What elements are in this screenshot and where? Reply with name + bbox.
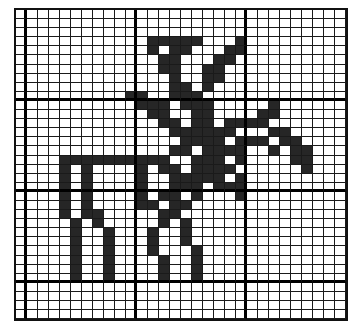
empty-cell [137,128,148,137]
filled-cell [137,156,148,165]
empty-cell [104,101,115,110]
empty-cell [236,83,247,92]
empty-cell [38,137,49,146]
empty-cell [38,46,49,55]
empty-cell [49,55,60,64]
empty-cell [247,265,258,274]
filled-cell [126,156,137,165]
empty-cell [126,174,137,183]
empty-cell [181,55,192,64]
empty-cell [148,256,159,265]
empty-cell [236,265,247,274]
empty-cell [159,28,170,37]
empty-cell [126,228,137,237]
cross-stitch-grid [14,8,348,321]
empty-cell [291,19,302,28]
empty-cell [49,83,60,92]
empty-cell [93,10,104,19]
empty-cell [236,10,247,19]
empty-cell [214,110,225,119]
filled-cell [225,119,236,128]
empty-cell [16,137,27,146]
empty-cell [82,237,93,246]
empty-cell [258,256,269,265]
empty-cell [203,219,214,228]
empty-cell [159,292,170,301]
empty-cell [93,74,104,83]
empty-cell [324,301,335,310]
empty-cell [93,28,104,37]
empty-cell [291,219,302,228]
empty-cell [291,83,302,92]
filled-cell [126,92,137,101]
empty-cell [335,174,346,183]
empty-cell [104,283,115,292]
empty-cell [225,210,236,219]
filled-cell [214,165,225,174]
empty-cell [214,10,225,19]
empty-cell [148,83,159,92]
empty-cell [324,156,335,165]
filled-cell [93,210,104,219]
filled-cell [291,137,302,146]
empty-cell [258,292,269,301]
empty-cell [291,74,302,83]
filled-cell [192,256,203,265]
empty-cell [137,28,148,37]
empty-cell [27,165,38,174]
filled-cell [203,174,214,183]
empty-cell [38,65,49,74]
empty-cell [115,128,126,137]
empty-cell [170,28,181,37]
empty-cell [137,246,148,255]
empty-cell [82,265,93,274]
empty-cell [324,10,335,19]
empty-cell [126,28,137,37]
empty-cell [258,246,269,255]
empty-cell [104,46,115,55]
filled-cell [82,165,93,174]
empty-cell [60,265,71,274]
filled-cell [170,65,181,74]
empty-cell [27,292,38,301]
empty-cell [27,274,38,283]
empty-cell [335,119,346,128]
empty-cell [236,74,247,83]
empty-cell [104,165,115,174]
empty-cell [137,283,148,292]
empty-cell [49,310,60,319]
filled-cell [71,274,82,283]
empty-cell [335,283,346,292]
empty-cell [71,137,82,146]
filled-cell [192,37,203,46]
filled-cell [104,237,115,246]
empty-cell [159,183,170,192]
empty-cell [104,174,115,183]
filled-cell [269,101,280,110]
empty-cell [148,19,159,28]
empty-cell [324,246,335,255]
empty-cell [247,219,258,228]
empty-cell [291,301,302,310]
empty-cell [313,55,324,64]
empty-cell [148,65,159,74]
empty-cell [16,110,27,119]
empty-cell [16,237,27,246]
empty-cell [214,201,225,210]
empty-cell [291,119,302,128]
empty-cell [60,46,71,55]
empty-cell [93,165,104,174]
filled-cell [170,119,181,128]
empty-cell [313,310,324,319]
empty-cell [60,101,71,110]
empty-cell [137,265,148,274]
empty-cell [269,83,280,92]
filled-cell [192,183,203,192]
empty-cell [225,310,236,319]
empty-cell [82,74,93,83]
filled-cell [236,174,247,183]
empty-cell [313,219,324,228]
empty-cell [115,37,126,46]
empty-cell [247,46,258,55]
empty-cell [137,219,148,228]
